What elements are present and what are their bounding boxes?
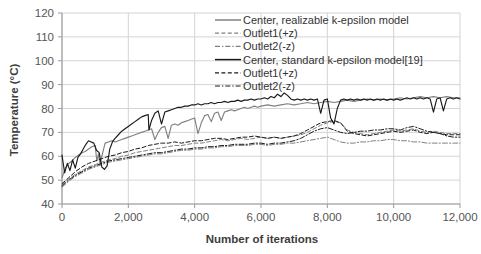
x-tick-label: 10,000 (376, 211, 411, 223)
x-tick-label: 4,000 (180, 211, 209, 223)
x-axis-title: Number of iterations (206, 233, 318, 245)
temperature-convergence-chart: 405060708090100110120 02,0004,0006,0008,… (0, 0, 481, 254)
x-tick-label: 6,000 (247, 211, 276, 223)
y-tick-label: 40 (41, 198, 54, 210)
legend-label-3: Center, standard k-epsilon model[19] (243, 54, 423, 66)
y-tick-label: 60 (41, 150, 54, 162)
y-tick-label: 100 (35, 55, 54, 67)
x-tick-label: 8,000 (313, 211, 342, 223)
y-tick-label: 110 (36, 31, 54, 43)
legend-label-2: Outlet2(-z) (243, 40, 295, 52)
y-tick-label: 90 (41, 79, 54, 91)
legend-label-4: Outlet1(+z) (243, 67, 298, 79)
legend-label-5: Outlet2(-z) (243, 80, 295, 92)
y-tick-label: 80 (41, 103, 54, 115)
chart-figure: 405060708090100110120 02,0004,0006,0008,… (0, 0, 481, 254)
x-tick-label: 12,000 (442, 211, 477, 223)
x-tick-label: 0 (59, 211, 65, 223)
y-tick-label: 120 (35, 7, 54, 19)
legend-label-0: Center, realizable k-epsilon model (243, 14, 409, 26)
y-tick-label: 70 (41, 126, 54, 138)
y-tick-label: 50 (41, 174, 54, 186)
x-tick-label: 2,000 (114, 211, 143, 223)
y-axis-title: Temperature (°C) (8, 64, 20, 157)
legend-label-1: Outlet1(+z) (243, 27, 298, 39)
